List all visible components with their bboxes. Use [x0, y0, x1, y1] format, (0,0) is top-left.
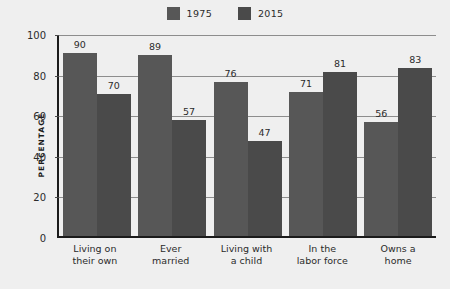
x-axis-category-line: a child [209, 255, 285, 267]
x-axis-category-line: Owns a [360, 243, 436, 255]
bar-value-label: 90 [74, 39, 86, 50]
bar-value-label: 57 [183, 106, 195, 117]
bar[interactable]: 57 [172, 120, 206, 236]
bar-value-label: 71 [300, 78, 312, 89]
bar-pair: 9070 [63, 35, 131, 236]
y-axis-labels: 100806040200 [0, 35, 52, 238]
bar-group: 8957 [134, 35, 209, 236]
x-axis-category-label: Owns ahome [360, 243, 436, 267]
x-axis-category-label: Living ontheir own [57, 243, 133, 267]
bar-value-label: 47 [258, 127, 270, 138]
legend-label-2015: 2015 [258, 8, 283, 19]
x-axis-category-line: married [133, 255, 209, 267]
bar-pair: 7647 [214, 35, 282, 236]
plot-area: 90708957764771815683 [57, 35, 436, 238]
y-axis-tick-label: 0 [40, 233, 46, 244]
legend-swatch-1975 [167, 7, 180, 20]
bar-value-label: 89 [149, 41, 161, 52]
bar[interactable]: 81 [323, 72, 357, 236]
bar[interactable]: 56 [364, 122, 398, 236]
x-axis-category-line: home [360, 255, 436, 267]
y-axis-tick-label: 40 [33, 151, 46, 162]
bar-group: 7181 [285, 35, 360, 236]
bar-group: 7647 [210, 35, 285, 236]
legend-item-2015: 2015 [238, 7, 283, 20]
bar-group: 9070 [59, 35, 134, 236]
x-axis-category-line: Living on [57, 243, 133, 255]
bar-value-label: 76 [224, 68, 236, 79]
y-axis-tick-label: 80 [33, 70, 46, 81]
bar[interactable]: 76 [214, 82, 248, 236]
x-axis-category-line: In the [284, 243, 360, 255]
bar-value-label: 81 [334, 58, 346, 69]
legend-swatch-2015 [238, 7, 251, 20]
bar[interactable]: 47 [248, 141, 282, 236]
bar[interactable]: 89 [138, 55, 172, 236]
legend-label-1975: 1975 [187, 8, 212, 19]
x-axis-labels: Living ontheir ownEvermarriedLiving with… [57, 243, 436, 267]
x-axis-category-label: In thelabor force [284, 243, 360, 267]
bar-chart: 1975 2015 PERCENTAGE 100806040200 907089… [0, 0, 450, 289]
bar[interactable]: 71 [289, 92, 323, 236]
bar-value-label: 83 [409, 54, 421, 65]
x-axis-category-line: Ever [133, 243, 209, 255]
bar-group: 5683 [361, 35, 436, 236]
bar[interactable]: 90 [63, 53, 97, 236]
x-axis-category-line: their own [57, 255, 133, 267]
bar[interactable]: 83 [398, 68, 432, 236]
bar-value-label: 56 [375, 108, 387, 119]
bar-pair: 8957 [138, 35, 206, 236]
y-axis-tick-label: 100 [27, 30, 46, 41]
x-axis-category-line: Living with [209, 243, 285, 255]
bar-groups: 90708957764771815683 [59, 35, 436, 236]
legend-item-1975: 1975 [167, 7, 212, 20]
chart-legend: 1975 2015 [0, 7, 450, 20]
x-axis-category-label: Evermarried [133, 243, 209, 267]
x-axis-category-label: Living witha child [209, 243, 285, 267]
x-axis-category-line: labor force [284, 255, 360, 267]
bar-pair: 7181 [289, 35, 357, 236]
bar-pair: 5683 [364, 35, 432, 236]
bar[interactable]: 70 [97, 94, 131, 236]
bar-value-label: 70 [108, 80, 120, 91]
y-axis-tick-label: 60 [33, 111, 46, 122]
y-axis-tick-label: 20 [33, 192, 46, 203]
